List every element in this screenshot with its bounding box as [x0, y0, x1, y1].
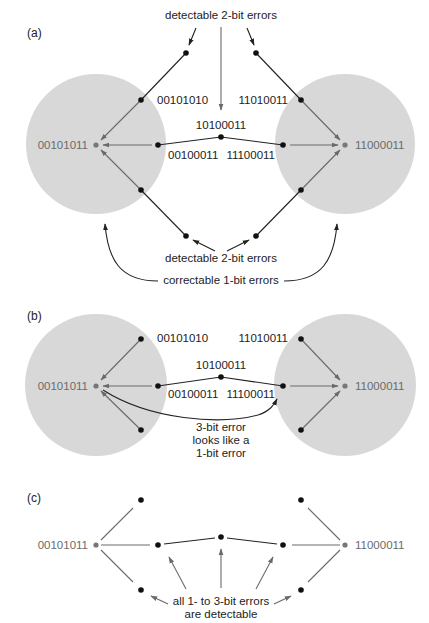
error-dot [280, 383, 286, 389]
error-dot [138, 187, 144, 193]
error-dot [253, 233, 259, 239]
error-label-left-upper: 00101010 [157, 94, 208, 106]
error-dot [218, 134, 224, 140]
edge [158, 137, 221, 145]
error-dot [298, 336, 304, 342]
arrow-to-top-left-error [189, 28, 196, 45]
edge [141, 53, 186, 100]
codeword-right-label: 11000011 [355, 380, 404, 392]
error-dot [183, 233, 189, 239]
error-label-left-upper: 00101010 [157, 332, 208, 344]
three-bit-annotation-line3: 1-bit error [196, 447, 246, 459]
edge [256, 53, 301, 100]
error-dot [298, 187, 304, 193]
error-dot [280, 142, 286, 148]
panel-c: (c) 00101011 11000011 all 1- to 3-bit er… [27, 491, 404, 620]
error-dot [218, 374, 224, 380]
edge [221, 377, 283, 386]
error-dot [298, 427, 304, 433]
error-label-middle-top: 10100011 [196, 119, 246, 131]
codeword-dot-left [93, 142, 98, 147]
arrow-to-bottom-left-error [193, 240, 215, 251]
error-dot [280, 542, 286, 548]
codeword-dot-right [342, 383, 347, 388]
error-dot [138, 587, 144, 593]
error-label-right-upper: 11010011 [239, 94, 288, 106]
correctable-annotation: correctable 1-bit errors [163, 274, 279, 286]
error-dot [298, 497, 304, 503]
edge [158, 377, 221, 386]
error-dot [155, 142, 161, 148]
arrow-to-bottom-right-error [227, 240, 249, 251]
panel-a: (a) detectable 2-bit errors detectable 2… [26, 9, 415, 286]
arrow-correctable-left [105, 224, 158, 281]
edge [101, 550, 133, 582]
error-label-right-upper: 11010011 [239, 332, 288, 344]
error-dot [138, 427, 144, 433]
arrow-detectable [274, 596, 291, 604]
panel-a-label: (a) [27, 26, 42, 40]
error-label-right-mid: 11100011 [226, 388, 275, 400]
panel-b: (b) 00101011 11000011 00101010 11010011 … [25, 309, 416, 459]
edge [101, 508, 133, 540]
edge [164, 538, 215, 544]
detectable-annotation-line1: all 1- to 3-bit errors [173, 595, 270, 607]
error-label-left-mid: 00100011 [168, 149, 218, 161]
codeword-dot-left [93, 542, 98, 547]
edge [227, 538, 277, 544]
edge [308, 508, 340, 540]
codeword-dot-right [342, 142, 347, 147]
codeword-right-label: 11000011 [355, 539, 404, 551]
codeword-left-label: 00101011 [38, 139, 88, 151]
edge [141, 190, 186, 236]
arrow-correctable-right [284, 224, 337, 281]
bottom-annotation-detectable: detectable 2-bit errors [165, 252, 277, 264]
arrow-detectable [151, 596, 168, 604]
panel-b-label: (b) [27, 309, 42, 323]
arrow-to-top-right-error [247, 28, 254, 45]
error-label-right-mid: 11100011 [226, 149, 275, 161]
error-dot [155, 542, 161, 548]
error-label-middle-top: 10100011 [196, 359, 246, 371]
codeword-dot-left [93, 383, 98, 388]
error-dot [138, 97, 144, 103]
codeword-right-label: 11000011 [355, 139, 404, 151]
error-dot [218, 534, 224, 540]
error-dot [298, 97, 304, 103]
error-label-left-mid: 00100011 [168, 388, 218, 400]
three-bit-annotation-line1: 3-bit error [196, 421, 246, 433]
detectable-annotation-line2: are detectable [185, 608, 258, 620]
codeword-left-label: 00101011 [38, 539, 88, 551]
panel-c-label: (c) [27, 491, 41, 505]
edge [256, 190, 301, 236]
error-dot [253, 50, 259, 56]
codeword-left-label: 00101011 [38, 380, 88, 392]
error-dot [298, 587, 304, 593]
three-bit-annotation-line2: looks like a [193, 434, 250, 446]
edge [308, 550, 340, 582]
error-dot [138, 497, 144, 503]
edge [221, 137, 283, 145]
error-dot [183, 50, 189, 56]
codeword-dot-right [342, 542, 347, 547]
error-dot [155, 383, 161, 389]
hamming-distance-diagram: (a) detectable 2-bit errors detectable 2… [0, 0, 429, 623]
arrow-detectable [169, 557, 186, 589]
error-dot [138, 336, 144, 342]
arrow-detectable [256, 557, 273, 589]
top-annotation-detectable: detectable 2-bit errors [165, 9, 277, 21]
